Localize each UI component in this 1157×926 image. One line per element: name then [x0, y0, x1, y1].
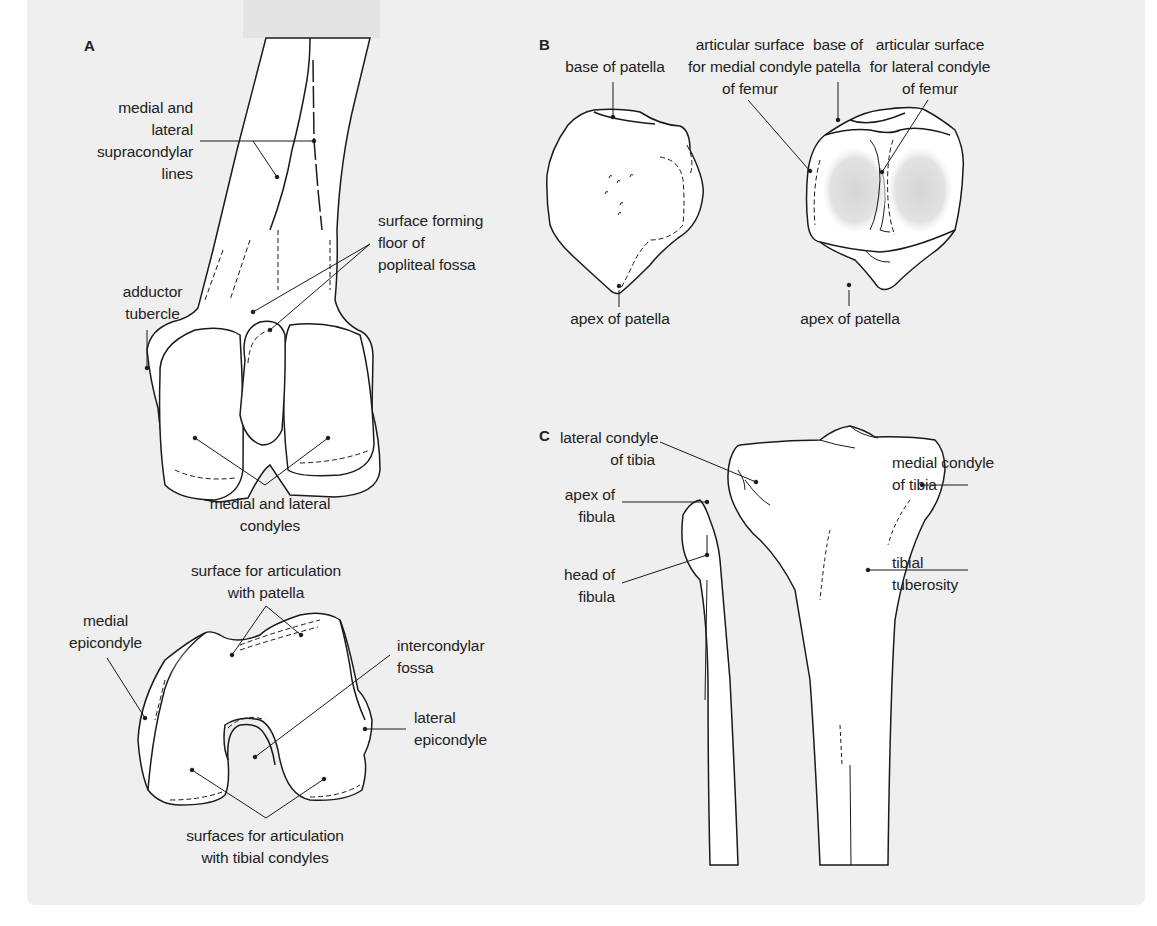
label-apex-of-fibula: apex of fibula — [560, 484, 615, 528]
panel-letter-b: B — [539, 36, 550, 53]
label-lateral-articular-surface: articular surface for lateral condyle of… — [865, 34, 995, 100]
label-base-of-patella-left: base of patella — [560, 56, 670, 78]
label-lateral-epicondyle: lateral epicondyle — [414, 707, 487, 751]
label-medial-epicondyle: medial epicondyle — [58, 610, 153, 654]
label-head-of-fibula: head of fibula — [560, 564, 615, 608]
label-lateral-condyle-tibia: lateral condyle of tibia — [560, 427, 655, 471]
label-apex-of-patella-right: apex of patella — [790, 308, 910, 330]
label-medial-articular-surface: articular surface for medial condyle of … — [685, 34, 815, 100]
label-adductor-tubercle: adductor tubercle — [100, 281, 205, 325]
panel-letter-c: C — [539, 427, 550, 444]
label-apex-of-patella-left: apex of patella — [560, 308, 680, 330]
label-medial-condyle-tibia: medial condyle of tibia — [892, 452, 994, 496]
label-base-of-patella-right: base of patella — [812, 34, 864, 78]
panel-letter-a: A — [84, 37, 95, 54]
label-patellar-surface: surface for articulation with patella — [170, 560, 362, 604]
label-supracondylar-lines: medial and lateral supracondylar lines — [80, 97, 193, 185]
label-intercondylar-fossa: intercondylar fossa — [397, 635, 484, 679]
label-medial-lateral-condyles: medial and lateral condyles — [180, 493, 360, 537]
label-tibial-articular-surfaces: surfaces for articulation with tibial co… — [165, 825, 365, 869]
label-tibial-tuberosity: tibial tuberosity — [892, 552, 958, 596]
patella-anterior — [547, 109, 703, 293]
label-popliteal-surface: surface forming floor of popliteal fossa — [378, 210, 483, 276]
